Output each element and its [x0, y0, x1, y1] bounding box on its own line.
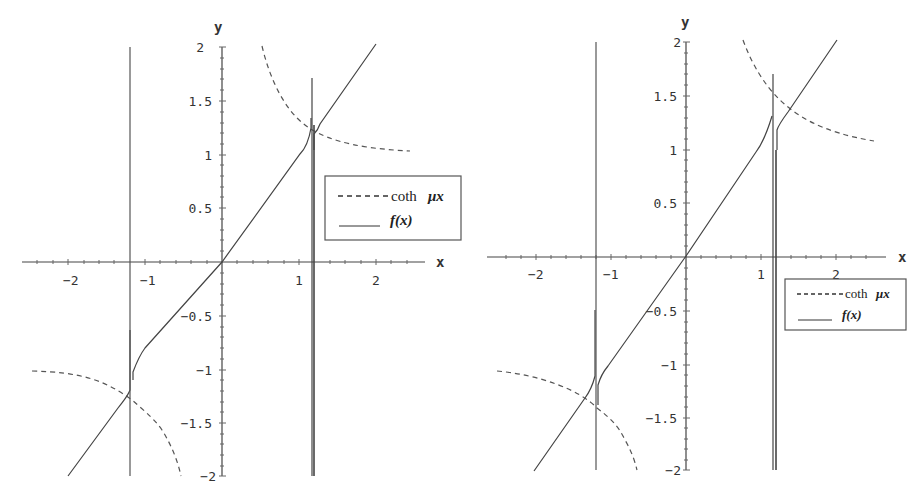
- y-axis-label: y: [214, 19, 223, 35]
- legend-label-fx: f(x): [842, 307, 862, 322]
- legend-box: [325, 176, 461, 240]
- y-axis-label: y: [681, 14, 690, 30]
- left-plot: −2 −1 1 2 x 2 1.5 1 0.5 −0.5 −1 −1.5 −2 …: [22, 19, 461, 484]
- y-tick-label: 1: [204, 148, 212, 163]
- coth-curve-upper: [262, 46, 410, 151]
- legend-label-mux: μx: [875, 286, 890, 301]
- x-axis-label: x: [436, 254, 445, 270]
- legend-label-fx: f(x): [390, 212, 413, 229]
- f-curve: [598, 116, 772, 405]
- legend-label-coth: coth: [391, 188, 417, 204]
- legend-label-coth: coth: [845, 286, 868, 301]
- legend-left: coth μx f(x): [325, 176, 461, 240]
- figure-canvas: −2 −1 1 2 x 2 1.5 1 0.5 −0.5 −1 −1.5 −2 …: [0, 0, 924, 496]
- x-tick-label: 1: [757, 267, 765, 282]
- y-tick-label: 0.5: [189, 201, 212, 216]
- x-tick-label: −2: [528, 267, 544, 282]
- y-tick-label: 1.5: [189, 94, 212, 109]
- coth-curve-upper: [743, 40, 874, 141]
- x-tick-label: −2: [63, 273, 79, 288]
- f-curve-upper: [314, 44, 376, 150]
- x-tick-label: −1: [140, 273, 156, 288]
- y-tick-label: 1.5: [654, 89, 677, 104]
- y-tick-label: −1: [196, 363, 212, 378]
- f-curve-upper: [777, 40, 837, 150]
- x-tick-label: −1: [603, 267, 619, 282]
- legend-right: coth μx f(x): [785, 279, 906, 330]
- y-tick-label: −1.5: [181, 416, 212, 431]
- y-tick-label: 1: [669, 143, 677, 158]
- y-tick-label: −1: [661, 358, 677, 373]
- y-tick-label: 2: [673, 35, 681, 50]
- y-tick-label: −1.5: [646, 411, 677, 426]
- y-tick-label: 2: [196, 40, 204, 55]
- x-axis-label: x: [898, 249, 907, 265]
- right-plot: −2 −1 1 2 x 2 1.5 1 0.5 −0.5 −1 −1.5 −2 …: [487, 14, 907, 478]
- f-curve-lower-left: [534, 310, 595, 471]
- x-tick-label: 2: [372, 273, 380, 288]
- y-tick-label: 0.5: [654, 196, 677, 211]
- x-tick-label: 1: [295, 273, 303, 288]
- y-tick-label: −2: [665, 463, 681, 478]
- y-tick-label: −2: [200, 469, 216, 484]
- legend-label-mux: μx: [427, 188, 444, 204]
- coth-curve-lower: [497, 371, 637, 470]
- y-tick-label: −0.5: [181, 309, 212, 324]
